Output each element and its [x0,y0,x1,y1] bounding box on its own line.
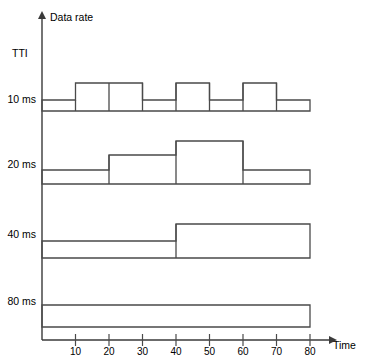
x-tick-label-20: 20 [97,347,122,356]
x-tick-label-70: 70 [264,347,289,356]
series-step-80ms [42,305,310,327]
y-axis-title: Data rate [50,12,93,23]
series-80ms-outline [42,305,310,327]
x-tick-label-60: 60 [231,347,256,356]
x-tick-label-30: 30 [130,347,155,356]
x-tick-label-40: 40 [164,347,189,356]
row-label-40ms: 40 ms [0,229,36,240]
x-axis-title: Time [333,340,356,351]
row-label-10ms: 10 ms [0,94,36,105]
data-rate-tti-chart: Data rate Time TTI 10 ms 20 ms 40 ms 80 … [0,0,366,356]
row-label-20ms: 20 ms [0,159,36,170]
x-tick-label-50: 50 [197,347,222,356]
x-tick-label-80: 80 [298,347,323,356]
x-tick-label-10: 10 [63,347,88,356]
row-label-80ms: 80 ms [0,296,36,307]
series-step-20ms [42,141,310,184]
series-step-40ms [42,224,310,258]
tti-group-title: TTI [12,48,28,59]
chart-plot-area [0,0,366,356]
series-step-10ms [42,83,310,111]
